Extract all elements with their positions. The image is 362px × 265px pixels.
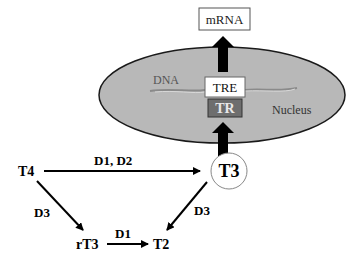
tre-label: TRE — [213, 80, 238, 95]
rt3-label: rT3 — [76, 237, 99, 252]
enzyme-d1-d2-label: D1, D2 — [94, 153, 132, 168]
thyroid-hormone-diagram: mRNA DNA TRE TR Nucleus T4 T3 rT3 T2 D1,… — [0, 0, 362, 265]
enzyme-d3-right-label: D3 — [194, 203, 210, 218]
enzyme-d3-left-label: D3 — [34, 205, 50, 220]
t2-label: T2 — [153, 237, 169, 252]
tr-label: TR — [215, 101, 235, 116]
enzyme-d1-label: D1 — [115, 226, 131, 241]
dna-label: DNA — [153, 73, 179, 87]
nucleus-label: Nucleus — [272, 103, 312, 117]
t3-label: T3 — [218, 161, 239, 181]
t4-label: T4 — [18, 164, 34, 179]
mrna-label: mRNA — [206, 12, 244, 27]
